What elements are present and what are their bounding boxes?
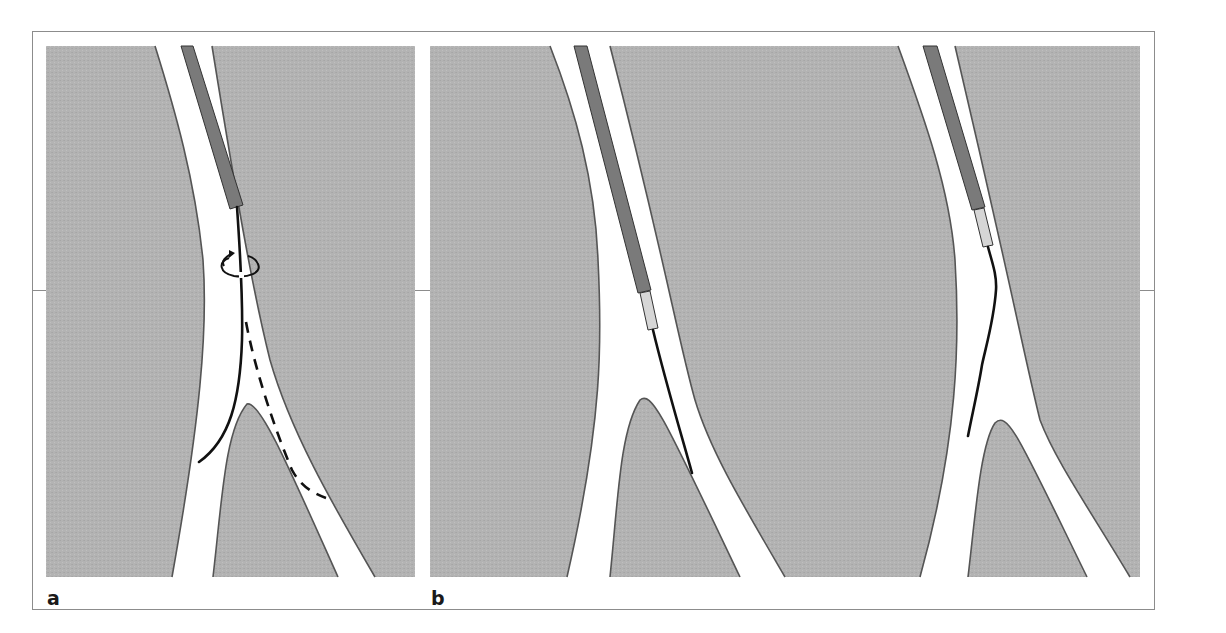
panel-b [430,46,1140,577]
figure-diagram [0,0,1226,633]
tissue-background [430,46,1140,577]
panel-a [46,46,415,577]
panel-label-b: b [431,589,445,608]
panel-label-a: a [47,589,60,608]
wire-gap-mask [239,272,244,278]
